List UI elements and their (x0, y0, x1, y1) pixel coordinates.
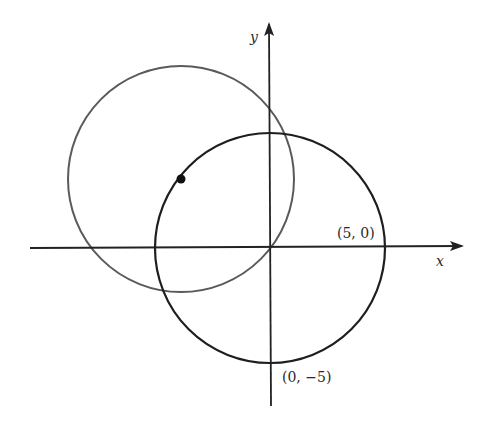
point-0-m5-label: (0, −5) (282, 369, 331, 385)
y-axis-label: y (249, 29, 259, 45)
y-axis (269, 24, 271, 406)
x-axis (30, 246, 462, 248)
point-5-0-label: (5, 0) (337, 225, 375, 241)
diagram-canvas: y x (5, 0) (0, −5) (0, 0, 485, 428)
x-axis-label: x (436, 253, 444, 269)
coordinate-plane: y x (5, 0) (0, −5) (0, 0, 485, 428)
center-point-dot (177, 175, 186, 184)
